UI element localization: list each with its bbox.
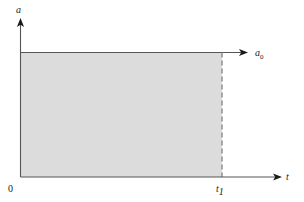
acceleration-time-figure: a t 0 a0 t1 xyxy=(0,0,304,202)
acceleration-level-label: a0 xyxy=(255,47,264,61)
figure-canvas: a t 0 a0 t1 xyxy=(0,0,304,202)
origin-label: 0 xyxy=(8,183,13,194)
x-axis-label: t xyxy=(286,171,289,182)
acceleration-level-subscript: 0 xyxy=(260,53,264,61)
shaded-area-region xyxy=(21,53,223,178)
t1-tick-subscript: 1 xyxy=(219,186,224,197)
y-axis-label: a xyxy=(16,4,21,15)
t1-tick-label: t1 xyxy=(216,183,224,197)
